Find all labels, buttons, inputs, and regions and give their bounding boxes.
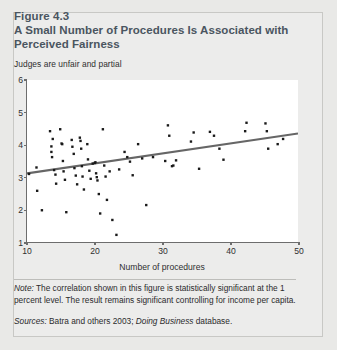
scatter-point xyxy=(65,211,67,213)
x-axis-tick-mark xyxy=(162,242,163,245)
y-axis-tick-label: 2 xyxy=(18,205,23,215)
scatter-point xyxy=(79,136,81,138)
x-axis-tick-label: 20 xyxy=(90,246,100,256)
scatter-point xyxy=(213,135,215,137)
scatter-point xyxy=(49,130,51,132)
y-axis-tick-mark xyxy=(24,177,27,178)
scatter-point xyxy=(96,179,98,181)
scatter-point xyxy=(276,143,278,145)
scatter-point xyxy=(115,234,117,236)
scatter-point xyxy=(71,139,73,141)
scatter-point xyxy=(36,190,38,192)
scatter-point xyxy=(175,159,177,161)
scatter-point xyxy=(80,147,82,149)
x-axis-tick-label: 10 xyxy=(22,246,32,256)
x-axis-tick-label: 30 xyxy=(158,246,168,256)
scatter-point xyxy=(59,128,61,130)
y-axis-tick-label: 5 xyxy=(18,108,23,118)
scatter-point xyxy=(131,174,133,176)
scatter-point xyxy=(218,147,220,149)
scatter-point xyxy=(267,147,269,149)
x-axis-tick-mark xyxy=(94,242,95,245)
scatter-point xyxy=(88,170,90,172)
sources-italic-title: Doing Business xyxy=(136,316,194,326)
scatter-point xyxy=(102,128,104,130)
scatter-point xyxy=(145,204,147,206)
chart-subtitle: Judges are unfair and partial xyxy=(14,59,122,69)
scatter-point xyxy=(73,167,75,169)
scatter-point xyxy=(167,124,169,126)
scatter-point xyxy=(244,130,246,132)
scatter-point xyxy=(111,219,113,221)
scatter-point xyxy=(28,173,30,175)
scatter-point xyxy=(108,170,110,172)
scatter-point xyxy=(71,146,73,148)
scatter-point xyxy=(118,168,120,170)
scatter-point xyxy=(94,161,96,163)
scatter-point xyxy=(95,172,97,174)
x-axis-tick-mark xyxy=(230,242,231,245)
scatter-point xyxy=(106,199,108,201)
scatter-point xyxy=(89,178,91,180)
figure-title: A Small Number of Procedures Is Associat… xyxy=(14,23,296,51)
scatter-plot: 1234561020304050 xyxy=(26,80,298,243)
scatter-point xyxy=(123,151,125,153)
scatter-point xyxy=(99,212,101,214)
figure-root: Figure 4.3 A Small Number of Procedures … xyxy=(0,0,337,350)
x-axis-tick-mark xyxy=(26,242,27,245)
scatter-point xyxy=(86,143,88,145)
figure-header: Figure 4.3 A Small Number of Procedures … xyxy=(14,9,296,51)
scatter-point xyxy=(282,138,284,140)
sources-label: Sources: xyxy=(14,316,47,326)
scatter-point xyxy=(81,165,83,167)
scatter-point xyxy=(198,168,200,170)
figure-number: Figure 4.3 xyxy=(14,9,296,23)
scatter-point xyxy=(209,131,211,133)
scatter-point xyxy=(152,156,154,158)
scatter-point xyxy=(50,145,52,147)
scatter-point xyxy=(266,130,268,132)
scatter-point xyxy=(245,122,247,124)
plot-canvas xyxy=(27,80,298,242)
scatter-point xyxy=(164,160,166,162)
scatter-point xyxy=(53,169,55,171)
sources-text-1: Batra and others 2003; xyxy=(47,316,136,326)
scatter-point xyxy=(104,175,106,177)
scatter-point xyxy=(61,143,63,145)
scatter-point xyxy=(83,188,85,190)
scatter-point xyxy=(96,176,98,178)
y-axis-tick-label: 4 xyxy=(18,140,23,150)
scatter-point xyxy=(50,151,52,153)
scatter-point xyxy=(129,160,131,162)
scatter-point xyxy=(264,122,266,124)
y-axis-tick-mark xyxy=(24,145,27,146)
scatter-point xyxy=(190,140,192,142)
figure-sources: Sources: Batra and others 2003; Doing Bu… xyxy=(14,316,299,328)
scatter-point xyxy=(87,158,89,160)
scatter-point xyxy=(75,174,77,176)
scatter-point xyxy=(64,179,66,181)
x-axis-tick-label: 50 xyxy=(294,246,304,256)
scatter-point xyxy=(172,164,174,166)
scatter-point xyxy=(81,175,83,177)
x-axis-tick-label: 40 xyxy=(226,246,236,256)
scatter-point xyxy=(192,131,194,133)
scatter-point xyxy=(168,135,170,137)
y-axis-tick-label: 6 xyxy=(18,75,23,85)
y-axis-tick-mark xyxy=(24,210,27,211)
scatter-point xyxy=(55,182,57,184)
scatter-point xyxy=(51,156,53,158)
note-text: The correlation shown in this figure is … xyxy=(14,283,296,305)
x-axis-tick-mark xyxy=(298,242,299,245)
scatter-point xyxy=(222,159,224,161)
scatter-point xyxy=(98,193,100,195)
sources-text-2: database. xyxy=(193,316,232,326)
y-axis-tick-mark xyxy=(24,79,27,80)
figure-note: Note: The correlation shown in this figu… xyxy=(14,283,299,306)
scatter-point xyxy=(141,157,143,159)
scatter-point xyxy=(52,138,54,140)
y-axis-tick-label: 3 xyxy=(18,173,23,183)
scatter-point xyxy=(62,160,64,162)
footer-divider xyxy=(14,279,296,280)
scatter-point xyxy=(137,143,139,145)
